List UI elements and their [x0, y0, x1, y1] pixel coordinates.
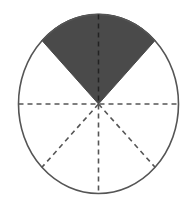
fraction-circle-diagram — [0, 0, 194, 200]
divider-diagonal-lower-left — [42, 104, 99, 167]
divider-diagonal-lower-right — [99, 104, 156, 167]
